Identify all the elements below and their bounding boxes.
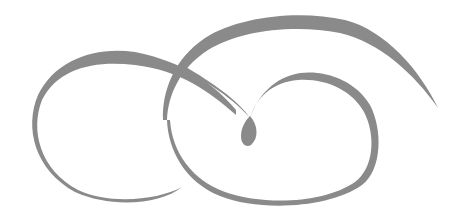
inner-loop-stroke bbox=[167, 72, 379, 205]
left-loop-stroke bbox=[32, 51, 236, 203]
flourish-ornament bbox=[0, 0, 472, 218]
upper-arc-stroke bbox=[163, 15, 438, 120]
teardrop bbox=[241, 116, 257, 146]
flourish-strokes bbox=[32, 15, 438, 205]
